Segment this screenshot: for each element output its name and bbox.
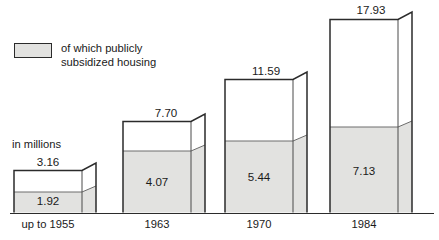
category-label-1984: 1984 — [352, 218, 377, 230]
bar-front-total-1984 — [330, 20, 398, 128]
bar-front-total-1955 — [14, 171, 82, 193]
bars-group — [0, 0, 439, 240]
bar-side-subsidized-1970 — [293, 135, 307, 213]
bar-side-subsidized-1984 — [398, 121, 412, 213]
bar-group-1984 — [330, 12, 412, 213]
bar-group-1963 — [123, 114, 205, 213]
category-label-1970: 1970 — [247, 218, 272, 230]
value-label-total-1984: 17.93 — [356, 3, 385, 16]
bar-side-subsidized-1963 — [191, 145, 205, 213]
x-axis-baseline — [10, 213, 434, 215]
bar-front-total-1970 — [225, 80, 293, 142]
value-label-total-1955: 3.16 — [37, 155, 60, 168]
value-label-subsidized-1970: 5.44 — [248, 170, 271, 183]
bar-chart: of which publicly subsidized housing in … — [0, 0, 439, 240]
bar-side-total-1970 — [293, 72, 307, 141]
value-label-total-1963: 7.70 — [155, 106, 178, 119]
category-label-1963: 1963 — [145, 218, 170, 230]
bar-side-total-1984 — [398, 12, 412, 127]
value-label-subsidized-1955: 1.92 — [37, 194, 60, 207]
bar-group-1970 — [225, 72, 307, 213]
value-label-subsidized-1984: 7.13 — [353, 164, 376, 177]
category-label-1955: up to 1955 — [22, 218, 75, 230]
bar-front-total-1963 — [123, 122, 191, 152]
value-label-total-1970: 11.59 — [252, 64, 280, 77]
value-label-subsidized-1963: 4.07 — [146, 175, 169, 188]
